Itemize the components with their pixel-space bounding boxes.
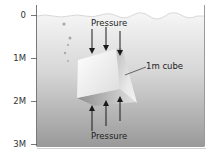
depth-label-2m: 2M [0,97,26,106]
pressure-label-top: Pressure [91,19,127,28]
bubble-icon [64,52,66,54]
cube-label: 1m cube [146,62,183,71]
bubble-icon [67,44,69,46]
depth-label-3m: 3M [0,140,26,149]
depth-label-1m: 1M [0,54,26,63]
bubble-icon [67,60,69,62]
pressure-label-bottom: Pressure [91,132,127,141]
pressure-diagram: 0 1M 2M 3M Pressure Pressure 1m cube [0,0,211,158]
bubble-icon [69,37,72,40]
depth-label-0: 0 [0,11,26,20]
bubble-icon [62,22,65,25]
